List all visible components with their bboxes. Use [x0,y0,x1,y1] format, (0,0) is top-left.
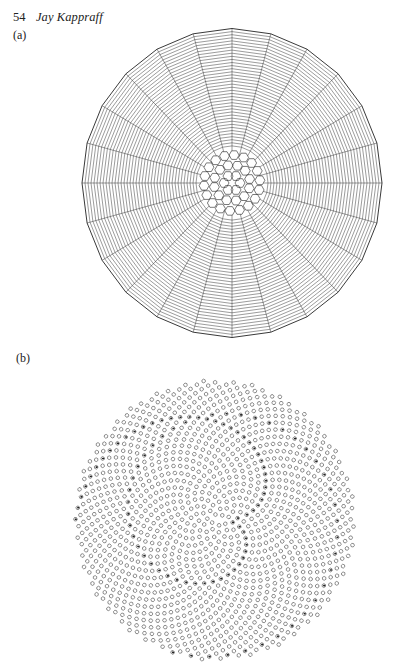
phyllotaxis-cells [74,379,356,661]
figure-b-phyllotaxis-pattern [0,0,400,668]
